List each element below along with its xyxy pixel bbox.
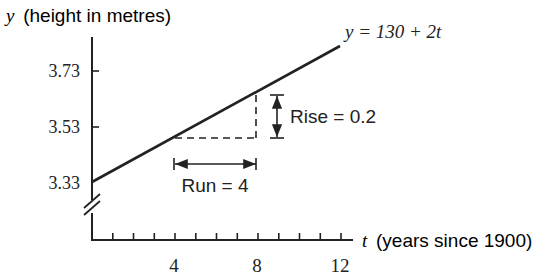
y-axis-label: y (height in metres) [4,5,171,26]
x-tick-label: 4 [169,255,179,276]
x-ticks [113,233,341,240]
y-ticks [92,71,99,127]
run-label: Run = 4 [181,175,249,196]
x-tick-label: 12 [331,255,350,276]
y-tick-label: 3.33 [49,173,81,193]
x-axis-label: t (years since 1900) [362,230,532,251]
rise-label: Rise = 0.2 [290,106,376,127]
y-tick-label: 3.73 [49,61,81,81]
equation-label: y = 130 + 2t [343,21,442,42]
chart: y (height in metres) 3.73 3.53 3.33 4 8 … [0,0,558,278]
x-tick-label: 8 [252,255,262,276]
y-tick-label: 3.53 [49,117,81,137]
slope-triangle [175,94,256,138]
run-arrow [174,158,256,170]
rise-arrow [270,95,284,138]
